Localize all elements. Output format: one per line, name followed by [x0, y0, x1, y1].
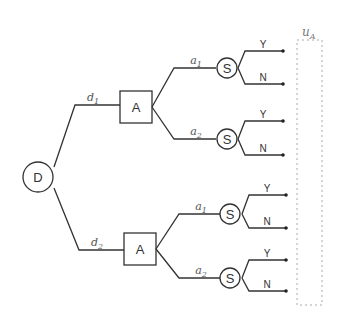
outcome-y-4: Y [264, 248, 271, 259]
edge-label-a1-bottom: a1 [195, 200, 207, 215]
terminal-dot [281, 119, 285, 123]
root-decision-node: D [23, 162, 53, 192]
edge-a1-bottom [156, 214, 220, 249]
svg-text:D: D [33, 170, 42, 185]
edge-label-a2-top: a2 [190, 125, 202, 140]
terminal-dot [284, 289, 288, 293]
outcome-y-1: Y [260, 39, 267, 50]
edge-y-2 [238, 121, 283, 139]
svg-text:A: A [136, 242, 145, 257]
edge-a1-top [152, 68, 216, 107]
terminal-dot [284, 193, 288, 197]
action-node-1: A [120, 91, 152, 123]
svg-text:A: A [132, 100, 141, 115]
svg-text:S: S [226, 207, 235, 222]
state-node-1: S [217, 58, 237, 78]
terminal-dot [281, 153, 285, 157]
terminal-dot [284, 226, 288, 230]
state-node-2: S [217, 129, 237, 149]
edge-d1 [54, 105, 120, 167]
outcome-n-3: N [263, 216, 270, 227]
edge-a2-top [152, 107, 216, 139]
decision-tree-diagram: d1 d2 D A A a1 a2 a1 a2 Y N S Y N S [0, 0, 337, 322]
svg-text:S: S [223, 61, 232, 76]
edge-label-a2-bottom: a2 [195, 264, 207, 279]
outcome-n-4: N [263, 279, 270, 290]
edge-label-d2: d2 [91, 236, 103, 251]
edge-y-1 [238, 51, 283, 68]
outcome-n-1: N [259, 72, 266, 83]
svg-text:S: S [226, 271, 235, 286]
action-node-2: A [124, 233, 156, 265]
state-node-4: S [220, 268, 240, 288]
terminal-dot [284, 258, 288, 262]
edge-label-a1-top: a1 [190, 54, 202, 69]
state-node-3: S [220, 204, 240, 224]
svg-text:S: S [223, 132, 232, 147]
utility-box [297, 40, 322, 305]
terminal-dot [281, 82, 285, 86]
edge-d2 [54, 188, 124, 250]
edge-a2-bottom [156, 249, 220, 278]
terminal-dot [281, 49, 285, 53]
outcome-y-3: Y [264, 183, 271, 194]
outcome-y-2: Y [260, 109, 267, 120]
outcome-n-2: N [259, 143, 266, 154]
edge-y-4 [242, 260, 286, 278]
edge-y-3 [242, 195, 286, 214]
utility-label: uA [302, 25, 316, 41]
edge-label-d1: d1 [87, 91, 99, 106]
